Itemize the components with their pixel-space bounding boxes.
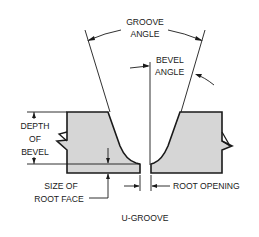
depth-arrow-top-icon [32, 113, 36, 119]
depth-of-bevel-label-2: OF [29, 134, 41, 144]
groove-angle-label-1: GROOVE [126, 17, 164, 27]
bevel-angle-arrow-left-icon [143, 64, 150, 69]
root-opening-label: ROOT OPENING [173, 181, 240, 191]
bevel-angle-label-1: BEVEL [156, 55, 184, 65]
bevel-angle-arrow-right-icon [195, 74, 202, 78]
root-opening-arrow-left-icon [134, 184, 140, 188]
u-groove-weld-diagram: GROOVE ANGLE BEVEL ANGLE DEPTH OF BEVEL … [0, 0, 259, 237]
root-face-label-2: ROOT FACE [34, 194, 84, 204]
root-opening-arrow-right-icon [152, 184, 158, 188]
groove-angle-arrow-right-icon [195, 36, 203, 41]
left-groove-line [85, 30, 110, 112]
groove-angle-label-2: ANGLE [130, 29, 159, 39]
right-groove-line [181, 30, 205, 112]
root-face-label-1: SIZE OF [44, 181, 77, 191]
root-face-arrow-bottom-icon [106, 174, 110, 180]
diagram-title: U-GROOVE [122, 213, 169, 223]
depth-of-bevel-label-1: DEPTH [20, 121, 49, 131]
bevel-angle-label-2: ANGLE [155, 67, 184, 77]
depth-arrow-bottom-icon [32, 158, 36, 164]
groove-angle-arrow-left-icon [87, 36, 95, 41]
right-plate [151, 112, 232, 173]
depth-of-bevel-label-3: BEVEL [21, 147, 49, 157]
